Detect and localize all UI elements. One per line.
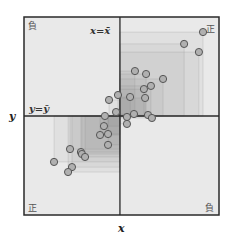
data-point [50, 158, 57, 165]
plot-area [24, 17, 219, 215]
data-point [141, 94, 148, 101]
data-point [104, 141, 111, 148]
data-point [123, 113, 130, 120]
data-point [159, 75, 166, 82]
y-mean-label: y=ȳ [28, 103, 50, 114]
data-point [81, 153, 88, 160]
deviation-rect [68, 116, 120, 172]
data-point [140, 85, 147, 92]
quadrant-label-top-right: 正 [206, 24, 215, 34]
data-point [100, 122, 107, 129]
data-point [130, 110, 137, 117]
x-axis-label: x [117, 222, 125, 235]
data-point [180, 40, 187, 47]
data-point [105, 96, 112, 103]
data-point [126, 93, 133, 100]
data-point [148, 114, 155, 121]
data-point [66, 145, 73, 152]
data-point [96, 131, 103, 138]
quadrant-label-top-left: 負 [28, 20, 37, 31]
data-point [64, 168, 71, 175]
data-point [114, 91, 121, 98]
quadrant-label-bottom-left: 正 [28, 203, 37, 213]
data-point [142, 70, 149, 77]
data-point [123, 120, 130, 127]
data-point [131, 67, 138, 74]
y-axis-label: y [8, 110, 17, 123]
data-point [147, 82, 154, 89]
data-point [195, 48, 202, 55]
x-mean-label: x=x̄ [89, 25, 111, 36]
quadrant-label-bottom-right: 負 [205, 202, 214, 213]
data-point [104, 130, 111, 137]
data-point [101, 112, 108, 119]
scatter-chart: 負 正 正 負 x=x̄ y=ȳ y x [0, 0, 228, 242]
data-point [112, 108, 119, 115]
